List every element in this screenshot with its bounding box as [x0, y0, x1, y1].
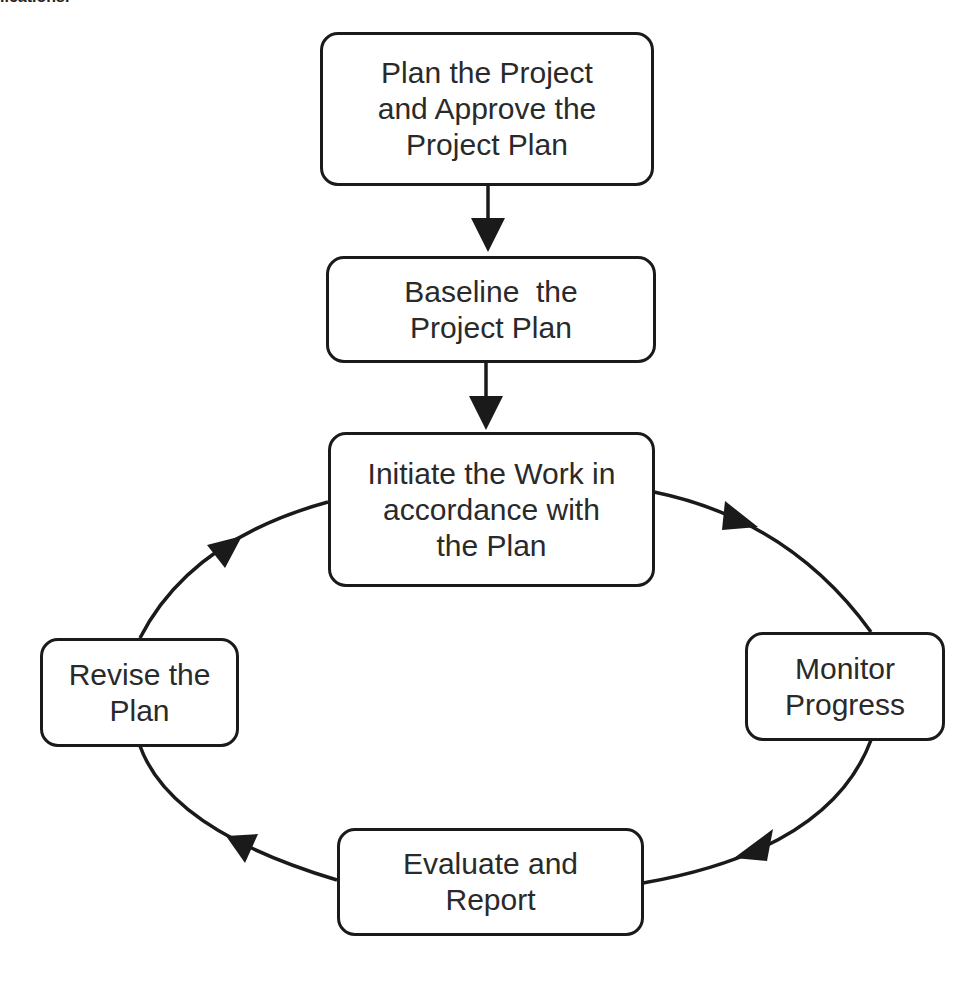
node-text: the Plan	[368, 528, 616, 564]
node-plan-project: Plan the Project and Approve the Project…	[320, 32, 654, 186]
edge-initiate-monitor	[654, 492, 871, 632]
edge-evaluate-revise	[140, 746, 337, 880]
node-text: Evaluate and	[403, 846, 578, 882]
node-text: Monitor	[785, 651, 905, 687]
node-text: Plan the Project	[378, 55, 597, 91]
node-baseline-plan: Baseline the Project Plan	[326, 256, 656, 363]
node-text: Progress	[785, 687, 905, 723]
node-text: accordance with	[368, 492, 616, 528]
arrowhead-icon	[207, 536, 242, 568]
node-evaluate-report: Evaluate and Report	[337, 828, 644, 936]
node-text: Initiate the Work in	[368, 456, 616, 492]
arrowhead-down-icon	[469, 396, 503, 430]
node-text: and Approve the	[378, 91, 597, 127]
node-text: Revise the	[69, 657, 211, 693]
arrowhead-icon	[722, 501, 758, 530]
node-text: Project Plan	[404, 310, 577, 346]
node-text: Report	[403, 882, 578, 918]
edge-monitor-evaluate	[643, 740, 871, 883]
arrowhead-icon	[734, 829, 773, 861]
node-text: Baseline the	[404, 274, 577, 310]
node-revise-plan: Revise the Plan	[40, 638, 239, 747]
node-initiate-work: Initiate the Work in accordance with the…	[328, 432, 655, 587]
arrowhead-down-icon	[471, 218, 505, 252]
node-text: Plan	[69, 693, 211, 729]
node-monitor-progress: Monitor Progress	[745, 632, 945, 741]
edge-revise-initiate	[140, 502, 328, 638]
node-text: Project Plan	[378, 127, 597, 163]
